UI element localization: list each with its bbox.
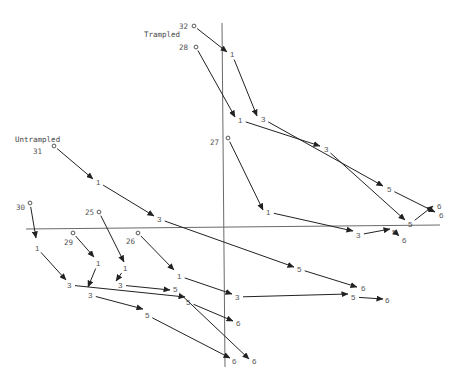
step-label: 5 <box>145 311 150 320</box>
group-label-trampled: Trampled <box>144 30 180 39</box>
trajectories-layer: 3213562813562713563113563013562913562513… <box>16 22 444 366</box>
step-label: 5 <box>387 185 392 194</box>
trajectory-arrow <box>101 216 124 262</box>
origin-marker <box>136 231 140 235</box>
step-label: 6 <box>232 357 237 366</box>
group-label-untrampled: Untrampled <box>15 135 60 144</box>
step-label: 1 <box>266 208 271 217</box>
trajectory-arrow <box>415 206 433 220</box>
plot-id-label: 29 <box>64 238 73 247</box>
trajectory-arrow <box>359 297 383 299</box>
origin-marker <box>192 24 196 28</box>
origin-marker <box>226 136 230 140</box>
step-label: 3 <box>118 281 123 290</box>
trajectory-plot-27: 271356 <box>210 136 407 245</box>
step-label: 1 <box>230 50 235 59</box>
trajectory-arrow <box>96 297 143 310</box>
step-label: 1 <box>96 178 101 187</box>
trajectory-arrow <box>246 122 320 146</box>
horizontal-axis <box>26 225 440 229</box>
plot-id-label: 26 <box>126 237 136 246</box>
trajectory-arrow <box>230 142 263 210</box>
step-label: 1 <box>96 259 101 268</box>
step-label: 5 <box>408 220 413 229</box>
trajectory-arrow <box>126 286 170 290</box>
plot-id-label: 25 <box>85 208 94 217</box>
trajectory-diagram: Trampled Untrampled 32135628135627135631… <box>0 0 453 375</box>
trajectory-arrow <box>103 185 154 216</box>
origin-marker <box>194 45 198 49</box>
trajectory-arrow <box>331 153 406 220</box>
trajectory-arrow <box>116 273 122 281</box>
trajectory-arrow <box>305 271 357 287</box>
trajectory-arrow <box>152 318 230 358</box>
trajectory-arrow <box>88 269 96 288</box>
step-label: 3 <box>88 291 93 300</box>
trajectory-plot-25: 251356 <box>85 208 257 366</box>
step-label: 5 <box>392 228 397 237</box>
step-label: 6 <box>236 319 241 328</box>
step-label: 3 <box>67 281 72 290</box>
trajectory-plot-30: 301356 <box>16 201 241 328</box>
step-label: 5 <box>186 298 191 307</box>
origin-marker <box>71 231 75 235</box>
trajectory-arrow <box>274 213 353 231</box>
trajectory-arrow <box>198 51 235 118</box>
step-label: 3 <box>261 115 266 124</box>
trajectory-arrow <box>76 236 94 257</box>
vertical-axis <box>222 23 225 367</box>
step-label: 1 <box>123 264 128 273</box>
step-label: 1 <box>177 272 182 281</box>
step-label: 3 <box>235 293 240 302</box>
origin-marker <box>52 144 56 148</box>
trajectory-arrow <box>234 60 257 116</box>
trajectory-plot-29: 291356 <box>64 231 237 366</box>
origin-marker <box>97 210 101 214</box>
plot-id-label: 27 <box>210 138 219 147</box>
trajectory-plot-32: 321356 <box>179 22 444 220</box>
step-label: 6 <box>252 357 257 366</box>
step-label: 1 <box>35 244 40 253</box>
step-label: 3 <box>157 215 162 224</box>
trajectory-arrow <box>141 236 174 270</box>
trajectory-plot-26: 261356 <box>126 231 390 305</box>
step-label: 6 <box>361 284 366 293</box>
trajectory-arrow <box>364 229 390 234</box>
step-label: 6 <box>437 202 442 211</box>
origin-marker <box>28 201 32 205</box>
step-label: 3 <box>356 231 361 240</box>
trajectory-plot-28: 281356 <box>179 43 442 229</box>
step-label: 6 <box>439 211 444 220</box>
step-label: 3 <box>324 145 329 154</box>
plot-id-label: 32 <box>179 22 188 31</box>
trajectory-arrow <box>31 207 36 238</box>
step-label: 5 <box>351 293 356 302</box>
trajectory-arrow <box>165 221 294 267</box>
trajectory-arrow <box>57 149 93 179</box>
step-label: 5 <box>173 285 178 294</box>
step-label: 6 <box>385 296 390 305</box>
step-label: 6 <box>402 236 407 245</box>
trajectory-arrow <box>185 278 232 294</box>
trajectory-arrow <box>41 252 66 280</box>
trajectory-plot-31: 311356 <box>33 144 366 293</box>
plot-id-label: 31 <box>33 147 42 156</box>
plot-id-label: 28 <box>179 43 189 52</box>
plot-id-label: 30 <box>16 203 26 212</box>
step-label: 5 <box>297 265 302 274</box>
trajectory-arrow <box>243 294 348 297</box>
step-label: 1 <box>238 116 243 125</box>
